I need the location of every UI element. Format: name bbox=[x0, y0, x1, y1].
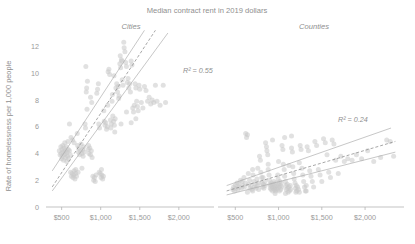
data-point bbox=[328, 175, 333, 180]
data-point bbox=[137, 87, 142, 92]
data-point bbox=[124, 64, 129, 69]
data-point bbox=[88, 95, 93, 100]
data-points-counties bbox=[230, 131, 396, 196]
data-point bbox=[139, 100, 144, 105]
data-point bbox=[282, 135, 287, 140]
data-point bbox=[107, 72, 112, 77]
data-point bbox=[365, 148, 370, 153]
x-tick-label: $1,000 bbox=[90, 213, 112, 222]
data-point bbox=[260, 175, 265, 180]
x-tick-label: $2,000 bbox=[168, 213, 190, 222]
data-point bbox=[245, 132, 250, 137]
y-axis: 024681012 bbox=[31, 42, 39, 212]
data-point bbox=[279, 184, 284, 189]
y-axis-label: Rate of homelessness per 1,000 people bbox=[4, 61, 13, 192]
data-point bbox=[120, 83, 125, 88]
data-point bbox=[136, 108, 141, 113]
data-point bbox=[304, 183, 309, 188]
data-point bbox=[85, 107, 90, 112]
data-point bbox=[84, 85, 89, 90]
data-point bbox=[163, 100, 168, 105]
data-point bbox=[154, 99, 159, 104]
data-point bbox=[304, 188, 309, 193]
data-point bbox=[310, 179, 315, 184]
data-point bbox=[345, 156, 350, 161]
data-point bbox=[67, 122, 72, 127]
data-point bbox=[311, 184, 316, 189]
data-point bbox=[106, 67, 111, 72]
data-point bbox=[282, 167, 287, 172]
data-point bbox=[282, 174, 287, 179]
panel-cities: Cities R² = 0.55 $500$1,000$1,500$2,000 bbox=[46, 22, 214, 222]
data-point bbox=[89, 100, 94, 105]
chart-title: Median contract rent in 2019 dollars bbox=[147, 6, 268, 15]
data-point bbox=[319, 179, 324, 184]
y-tick-label: 8 bbox=[35, 96, 39, 105]
data-point bbox=[309, 174, 314, 179]
data-point bbox=[95, 87, 100, 92]
data-point bbox=[118, 53, 123, 58]
data-point bbox=[331, 142, 336, 147]
r-squared-annotation-counties: R² = 0.24 bbox=[338, 115, 368, 124]
data-point bbox=[293, 190, 298, 195]
panel-label-counties: Counties bbox=[299, 22, 329, 31]
data-point bbox=[326, 170, 331, 175]
data-point bbox=[128, 89, 133, 94]
y-tick-label: 6 bbox=[35, 122, 39, 131]
data-point bbox=[108, 126, 113, 131]
y-tick-label: 4 bbox=[35, 149, 39, 158]
data-point bbox=[122, 49, 127, 54]
data-point bbox=[314, 143, 319, 148]
panel-label-cities: Cities bbox=[122, 22, 141, 31]
data-point bbox=[266, 162, 271, 167]
data-point bbox=[350, 158, 355, 163]
data-point bbox=[72, 140, 77, 145]
data-point bbox=[119, 122, 124, 127]
data-point bbox=[83, 64, 88, 69]
data-point bbox=[119, 59, 124, 64]
data-point bbox=[325, 152, 330, 157]
data-point bbox=[267, 172, 272, 177]
regression-lines-cities bbox=[52, 30, 168, 191]
x-tick-label: $2,000 bbox=[354, 213, 376, 222]
data-point bbox=[112, 130, 117, 135]
y-tick-label: 10 bbox=[31, 69, 39, 78]
data-point bbox=[246, 171, 251, 176]
data-point bbox=[121, 40, 126, 45]
data-point bbox=[323, 140, 328, 145]
data-point bbox=[318, 172, 323, 177]
x-tick-label: $1,000 bbox=[268, 213, 290, 222]
y-tick-label: 2 bbox=[35, 176, 39, 185]
data-point bbox=[336, 171, 341, 176]
data-point bbox=[85, 79, 90, 84]
data-point bbox=[134, 99, 139, 104]
y-tick-label: 0 bbox=[35, 203, 39, 212]
data-point bbox=[245, 190, 250, 195]
data-point bbox=[158, 103, 163, 108]
data-point bbox=[79, 166, 84, 171]
data-point bbox=[276, 159, 281, 164]
data-point bbox=[306, 148, 311, 153]
data-point bbox=[83, 126, 88, 131]
y-tick-label: 12 bbox=[31, 42, 39, 51]
chart-figure: Median contract rent in 2019 dollars Cit… bbox=[0, 0, 415, 244]
data-point bbox=[288, 187, 293, 192]
data-point bbox=[93, 179, 98, 184]
data-point bbox=[371, 159, 376, 164]
data-point bbox=[133, 116, 138, 121]
r-squared-annotation-cities: R² = 0.55 bbox=[183, 66, 214, 75]
x-axis-cities: $500$1,000$1,500$2,000 bbox=[46, 207, 214, 222]
data-point bbox=[101, 174, 106, 179]
data-point bbox=[144, 88, 149, 93]
data-point bbox=[283, 191, 288, 196]
data-point bbox=[131, 109, 136, 114]
data-point bbox=[290, 150, 295, 155]
data-point bbox=[124, 109, 129, 114]
x-tick-label: $500 bbox=[54, 213, 70, 222]
data-point bbox=[270, 138, 275, 143]
data-point bbox=[76, 170, 81, 175]
data-point bbox=[391, 154, 396, 159]
data-point bbox=[161, 83, 166, 88]
data-point bbox=[250, 188, 255, 193]
data-point bbox=[265, 152, 270, 157]
